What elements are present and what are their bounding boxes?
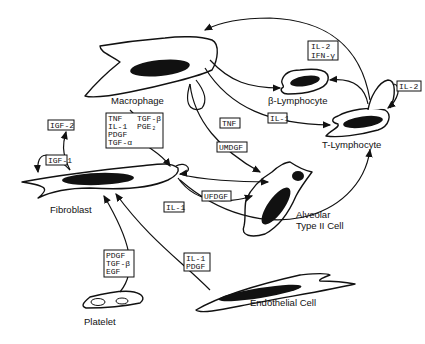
endothelial-label: Endothelial Cell xyxy=(250,297,316,308)
svg-text:PDGF: PDGF xyxy=(186,262,205,271)
factor-il2-t: IL-2 xyxy=(397,81,421,91)
factor-tnf: TNF xyxy=(220,118,240,128)
b-lymphocyte-cell xyxy=(281,69,328,94)
svg-text:IL-2: IL-2 xyxy=(399,82,418,91)
factor-endothelial-box: IL-1 PDGF xyxy=(184,253,210,271)
factor-ufdgf: UFDGF xyxy=(202,191,231,201)
macrophage-cell xyxy=(85,37,217,97)
factor-igf2: IGF-2 xyxy=(48,120,74,130)
factor-il1-fibroblast: IL-1 xyxy=(164,202,185,212)
svg-text:IGF-1: IGF-1 xyxy=(48,156,72,165)
cell-interaction-diagram: Macrophage β-Lymphocyte T-Lymphocyte Fib… xyxy=(0,0,425,344)
fibroblast-cell xyxy=(22,164,178,198)
svg-text:EGF: EGF xyxy=(106,267,121,276)
svg-text:PGE₂: PGE₂ xyxy=(137,122,156,131)
platelet-cell xyxy=(83,291,143,308)
t-lymphocyte-label: T-Lymphocyte xyxy=(322,139,381,150)
svg-text:IL-2: IL-2 xyxy=(311,42,330,51)
alveolar-label-line2: Type II Cell xyxy=(296,220,344,231)
factor-il2-ifn: IL-2 IFN-γ xyxy=(308,41,338,60)
svg-text:IGF-2: IGF-2 xyxy=(50,121,74,130)
svg-text:TGF-α: TGF-α xyxy=(108,138,132,147)
svg-text:TNF: TNF xyxy=(222,119,237,128)
factor-macrophage-box: TNF TGF-β IL-1 PGE₂ PDGF TGF-α xyxy=(106,113,163,148)
b-lymphocyte-label: β-Lymphocyte xyxy=(268,95,328,106)
svg-text:UFDGF: UFDGF xyxy=(204,192,228,201)
factor-igf1: IGF-1 xyxy=(46,155,72,165)
factor-il1-t: IL-1 xyxy=(268,113,289,123)
fibroblast-label: Fibroblast xyxy=(50,204,92,215)
factor-umdgf: UMDGF xyxy=(217,142,247,152)
svg-text:IL-1: IL-1 xyxy=(270,114,289,123)
svg-text:IFN-γ: IFN-γ xyxy=(311,51,335,60)
svg-text:IL-1: IL-1 xyxy=(166,203,185,212)
platelet-label: Platelet xyxy=(84,316,116,327)
macrophage-label: Macrophage xyxy=(111,95,164,106)
svg-text:UMDGF: UMDGF xyxy=(219,143,243,152)
factor-platelet-box: PDGF TGF-β EGF xyxy=(104,250,134,277)
